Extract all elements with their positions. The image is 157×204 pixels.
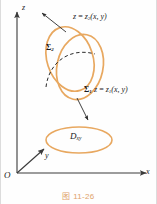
domain-subscript: xy xyxy=(77,135,82,141)
sigma1-leader-arrow xyxy=(77,98,88,120)
sigma1-label: Σ1 xyxy=(84,86,92,95)
y-axis-label: y xyxy=(45,152,49,160)
intersection-dashed-curve xyxy=(46,52,95,87)
sigma2-subscript: 2 xyxy=(51,47,53,52)
upper-eq-equals: = xyxy=(76,12,85,21)
domain-region-label: Dxy xyxy=(70,132,81,142)
z-axis-label: z xyxy=(22,4,25,12)
sigma2-leader-arrow xyxy=(42,13,66,32)
y-axis xyxy=(17,149,44,173)
upper-surface-equation: z = z2(x, y) xyxy=(73,13,107,22)
upper-eq-args: (x, y) xyxy=(90,12,106,21)
surface-sigma2-curve xyxy=(38,21,102,98)
x-axis-label: x xyxy=(146,168,150,176)
lower-eq-equals: = xyxy=(97,85,106,94)
sigma1-subscript: 1 xyxy=(89,89,91,94)
figure-container: z y x O Σ2 z = z2(x, y) Σ1 z = z1(x, y) … xyxy=(0,0,157,204)
figure-caption: 图 11-26 xyxy=(0,190,157,201)
lower-surface-equation: z = z1(x, y) xyxy=(94,86,128,95)
figure-graphic xyxy=(0,0,157,204)
lower-eq-args: (x, y) xyxy=(111,85,127,94)
origin-label: O xyxy=(4,171,11,180)
sigma2-label: Σ2 xyxy=(46,44,54,53)
